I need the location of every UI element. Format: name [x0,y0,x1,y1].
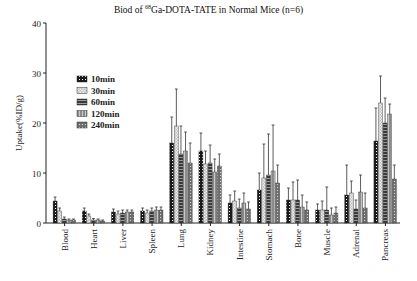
bar-120min [271,171,275,223]
x-tick-label: Lung [176,229,186,248]
bar-60min [179,154,183,223]
bar-60min [325,210,329,223]
bar-30min [87,216,91,223]
bar-120min [125,212,129,223]
legend-label: 30min [91,86,115,96]
axes: 010203040Uptake(%ID/g)BloodHeartLiverSpl… [14,19,400,261]
bar-120min [213,172,217,223]
bar-10min [228,203,232,223]
legend-label: 240min [91,120,120,130]
bar-60min [296,200,300,223]
bar-240min [246,209,250,223]
x-tick-label: Heart [89,229,99,249]
bar-60min [91,220,95,223]
bar-60min [266,175,270,223]
bar-240min [159,210,163,223]
bar-240min [363,208,367,223]
bar-240min [276,183,280,223]
bar-120min [300,207,304,223]
bar-10min [345,195,349,223]
bar-60min [62,219,66,223]
legend-swatch-240min [77,122,87,128]
legend-label: 120min [91,109,120,119]
legend-swatch-120min [77,111,87,117]
x-tick-label: Intestine [235,229,245,260]
bar-10min [316,210,320,223]
x-tick-label: Spleen [147,229,157,254]
bar-120min [388,114,392,223]
bar-30min [379,103,383,223]
y-tick-label: 30 [32,69,42,79]
legend-swatch-30min [77,88,87,94]
bar-60min [237,208,241,223]
bar-30min [233,201,237,223]
bar-30min [145,213,149,223]
bar-120min [329,215,333,223]
bar-120min [154,210,158,223]
y-tick-label: 0 [37,219,42,229]
bar-240min [305,210,309,223]
bar-10min [141,211,145,223]
bar-10min [286,200,290,223]
bar-60min [121,213,125,223]
y-axis-label: Uptake(%ID/g) [14,95,24,151]
bar-10min [374,141,378,223]
bar-30min [174,126,178,223]
x-tick-label: Bone [293,229,303,248]
bar-60min [150,211,154,223]
bar-10min [199,151,203,223]
x-tick-label: Kidney [205,229,215,256]
bar-10min [82,211,86,223]
bar-240min [392,179,396,223]
x-tick-label: Muscle [322,229,332,256]
legend-label: 60min [91,97,115,107]
bar-240min [188,163,192,223]
bar-30min [58,211,62,223]
bar-60min [354,209,358,223]
bar-30min [291,200,295,223]
x-tick-label: Blood [60,229,70,252]
bar-240min [130,212,134,223]
legend-swatch-60min [77,99,87,105]
bar-30min [320,210,324,223]
bar-240min [71,220,75,223]
legend-swatch-10min [77,76,87,82]
y-tick-label: 20 [32,119,42,129]
bar-30min [204,164,208,223]
bar-10min [257,190,261,223]
y-tick-label: 40 [32,19,42,29]
y-tick-label: 10 [32,169,42,179]
x-tick-label: Pancreas [380,229,390,261]
bar-60min [383,123,387,223]
x-tick-label: Stomach [264,229,274,261]
bar-10min [170,143,174,223]
bar-60min [208,163,212,223]
bar-30min [349,193,353,223]
bar-240min [217,166,221,223]
legend-label: 10min [91,74,115,84]
bar-240min [101,221,105,223]
bar-10min [53,201,57,223]
bar-30min [116,214,120,223]
x-tick-label: Liver [118,229,128,249]
bar-120min [184,151,188,223]
bar-120min [359,192,363,223]
bar-120min [96,220,100,223]
x-tick-label: Adrenal [351,229,361,258]
bar-30min [262,178,266,223]
bar-120min [67,220,71,223]
bar-10min [111,212,115,223]
bar-240min [334,213,338,223]
bar-chart: 010203040Uptake(%ID/g)BloodHeartLiverSpl… [0,0,417,281]
bar-120min [242,203,246,223]
legend: 10min30min60min120min240min [77,74,120,130]
